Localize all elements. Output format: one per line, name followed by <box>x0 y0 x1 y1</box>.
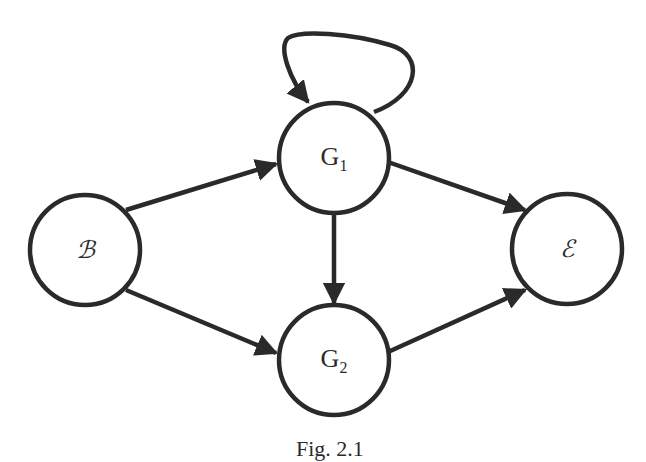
edge-b-g2 <box>126 290 276 353</box>
edge-g1-e <box>388 162 525 210</box>
node-b-label: ℬ <box>76 236 95 264</box>
node-g2-letter: G <box>321 344 340 373</box>
figure-caption: Fig. 2.1 <box>296 436 364 462</box>
edge-b-g1 <box>126 164 276 210</box>
node-g1-letter: G <box>321 142 340 171</box>
edge-g2-e <box>388 290 525 352</box>
node-g1-subscript: 1 <box>339 157 347 174</box>
node-g2-subscript: 2 <box>339 359 347 376</box>
node-g1-label: G1 <box>321 142 348 175</box>
edge-g1-self-loop <box>284 34 413 112</box>
node-g2-label: G2 <box>321 344 348 377</box>
node-e-label: ℰ <box>560 235 575 263</box>
